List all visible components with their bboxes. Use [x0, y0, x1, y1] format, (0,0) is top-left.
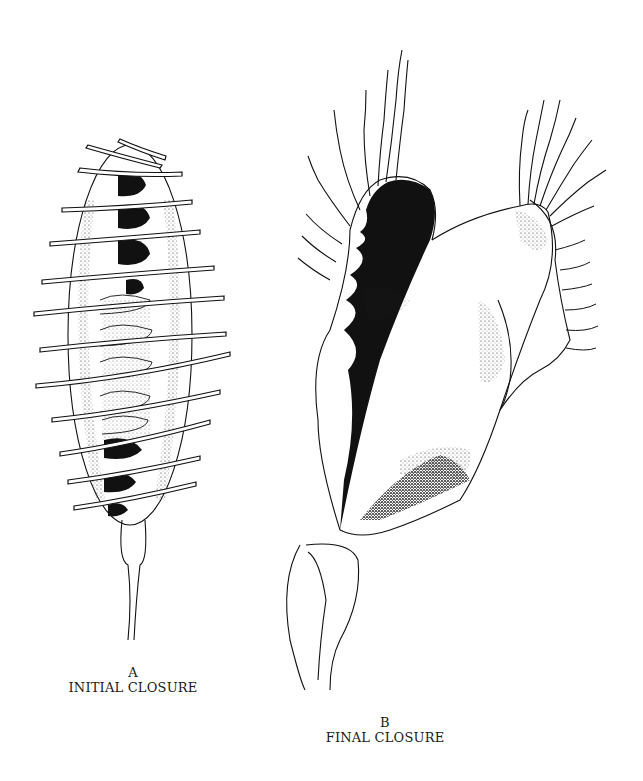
trap-illustrations — [0, 0, 643, 781]
figure: A INITIAL CLOSURE B FINAL CLOSURE — [0, 0, 643, 781]
panel-a-caption: INITIAL CLOSURE — [48, 680, 218, 695]
trap-final-closure-drawing — [287, 50, 606, 690]
panel-b-caption: FINAL CLOSURE — [300, 730, 470, 745]
panel-a-letter: A — [48, 665, 218, 680]
trap-initial-closure-drawing — [34, 139, 230, 640]
panel-a-label: A INITIAL CLOSURE — [48, 665, 218, 695]
panel-b-label: B FINAL CLOSURE — [300, 715, 470, 745]
panel-b-letter: B — [300, 715, 470, 730]
